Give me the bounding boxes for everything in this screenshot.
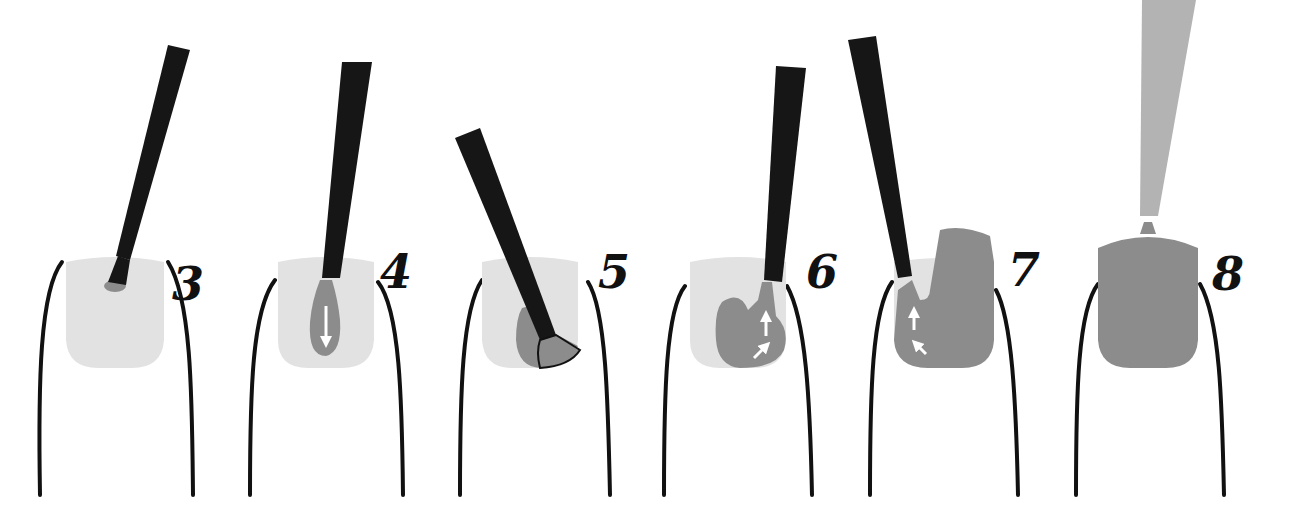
step-number-7: 7 xyxy=(1008,243,1040,297)
step-number-6: 6 xyxy=(806,245,838,299)
step-number-8: 8 xyxy=(1211,247,1244,301)
polish-drip xyxy=(1140,222,1156,234)
brush-handle-icon xyxy=(116,45,190,260)
step-4: 4 xyxy=(250,62,412,495)
polish-coat xyxy=(894,228,994,368)
step-5: 5 xyxy=(455,128,630,495)
step-3: 3 xyxy=(39,45,204,495)
step-number-3: 3 xyxy=(172,257,204,311)
nail-polished xyxy=(1098,237,1198,368)
brush-handle-icon xyxy=(322,62,372,278)
bottle-stem-icon xyxy=(1140,0,1196,216)
step-8: 8 xyxy=(1076,0,1244,495)
step-7: 7 xyxy=(848,36,1040,495)
nail-polish-steps-diagram: 3 4 5 6 7 xyxy=(0,0,1293,524)
brush-handle-icon xyxy=(848,36,912,278)
brush-handle-icon xyxy=(764,66,806,282)
step-number-5: 5 xyxy=(598,245,630,299)
step-6: 6 xyxy=(664,66,838,495)
step-number-4: 4 xyxy=(380,245,412,299)
